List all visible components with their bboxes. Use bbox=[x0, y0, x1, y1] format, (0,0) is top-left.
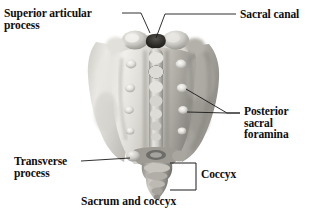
transverse-process-left bbox=[126, 151, 140, 162]
label-coccyx: Coccyx bbox=[201, 169, 236, 181]
median-sacral-crest bbox=[143, 48, 169, 152]
label-posterior-sacral-foramina: Posterior sacral foramina bbox=[244, 106, 289, 141]
superior-articular-process-left bbox=[122, 31, 148, 50]
label-sacral-canal: Sacral canal bbox=[240, 9, 299, 21]
transverse-process-right bbox=[172, 151, 186, 162]
figure-caption: Sacrum and coccyx bbox=[81, 195, 176, 207]
sacral-canal-opening bbox=[146, 34, 166, 49]
label-transverse-process: Transverse process bbox=[14, 156, 67, 179]
label-superior-articular-process: Superior articular process bbox=[4, 8, 92, 31]
anatomical-figure-sacrum-coccyx: Superior articular process Sacral canal … bbox=[0, 0, 323, 210]
